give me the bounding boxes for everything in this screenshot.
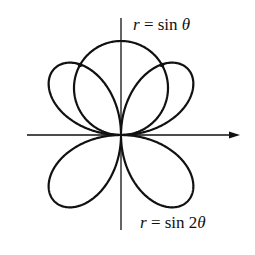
equation-text: = sin 2 xyxy=(147,213,198,232)
axes xyxy=(27,18,240,230)
variable-theta: θ xyxy=(182,15,190,34)
polar-diagram: r = sin θ r = sin 2θ xyxy=(0,0,255,255)
equation-text: = sin xyxy=(140,15,182,34)
intersection-point xyxy=(78,63,83,68)
intersection-point xyxy=(160,63,165,68)
circle-equation-label: r = sin θ xyxy=(133,16,190,33)
rose-equation-label: r = sin 2θ xyxy=(140,214,206,231)
variable-r: r xyxy=(140,213,147,232)
variable-r: r xyxy=(133,15,140,34)
x-axis-arrowhead-icon xyxy=(229,132,240,139)
variable-theta: θ xyxy=(197,213,205,232)
diagram-canvas xyxy=(0,0,255,255)
